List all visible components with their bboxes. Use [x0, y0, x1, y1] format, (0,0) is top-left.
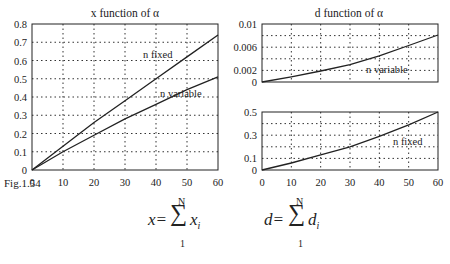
series-annotation: n variable: [160, 88, 202, 99]
x-tick-label: 10: [58, 177, 69, 188]
y-tick-label: 0.7: [14, 37, 27, 48]
y-tick-label: 0.6: [14, 56, 27, 67]
formula-d-term: di: [308, 210, 319, 231]
x-tick-label: 50: [403, 177, 414, 188]
series-line-n-fixed: [32, 35, 218, 170]
figure-canvas: x function of α00.10.20.30.40.50.60.70.8…: [0, 0, 450, 264]
formula-d-lower: 1: [298, 238, 303, 249]
y-tick-label: 0.002: [233, 65, 257, 76]
x-tick-label: 60: [213, 177, 224, 188]
formula-d-lhs: d=: [264, 210, 284, 229]
formula-x-upper: N: [178, 196, 185, 207]
x-tick-label: 0: [259, 177, 264, 188]
y-tick-label: 0.006: [233, 42, 257, 53]
y-tick-label: 0.4: [14, 92, 28, 103]
x-tick-label: 10: [286, 177, 297, 188]
x-tick-label: 30: [120, 177, 131, 188]
y-tick-label: 0.3: [244, 130, 257, 141]
formula-x-term: xi: [190, 210, 200, 231]
x-tick-label: 20: [315, 177, 326, 188]
y-tick-label: 0.01: [239, 19, 257, 30]
series-annotation: n fixed: [393, 136, 423, 147]
y-tick-label: 0.8: [14, 19, 27, 30]
series-annotation: n fixed: [143, 49, 173, 60]
x-tick-label: 50: [182, 177, 193, 188]
formula-d: d=: [264, 210, 284, 230]
figure-label: Fig.1.54: [4, 177, 41, 189]
chart-title: x function of α: [91, 7, 159, 19]
formula-d-sub: i: [317, 220, 320, 231]
x-tick-label: 40: [374, 177, 385, 188]
plot-frame: [262, 24, 438, 82]
x-tick-label: 40: [151, 177, 162, 188]
formula-x-lhs: x=: [148, 210, 167, 229]
formula-d-upper: N: [296, 196, 303, 207]
series-annotation: n variable: [366, 64, 408, 75]
y-tick-label: 0.3: [14, 110, 27, 121]
chart-title: d function of α: [315, 7, 383, 19]
d-fixed-chart: 00.10.30.50102030405060n fixed: [244, 107, 443, 188]
d-function-chart: d function of α00.0020.0060.01n variable: [233, 7, 438, 88]
x-function-chart: x function of α00.10.20.30.40.50.60.70.8…: [14, 7, 223, 188]
x-tick-label: 30: [345, 177, 356, 188]
y-tick-label: 0.1: [244, 153, 257, 164]
y-tick-label: 0.5: [244, 107, 257, 118]
formula-x-term-var: x: [190, 210, 198, 229]
y-tick-label: 0: [22, 165, 27, 176]
y-tick-label: 0: [252, 77, 257, 88]
y-tick-label: 0.2: [14, 129, 27, 140]
formula-d-term-var: d: [308, 210, 317, 229]
y-tick-label: 0: [252, 165, 257, 176]
formula-x-sub: i: [198, 220, 201, 231]
y-tick-label: 0.5: [14, 74, 27, 85]
formula-x-lower: 1: [180, 238, 185, 249]
x-tick-label: 60: [433, 177, 444, 188]
x-tick-label: 20: [89, 177, 100, 188]
formula-x: x=: [148, 210, 167, 230]
y-tick-label: 0.1: [14, 147, 27, 158]
